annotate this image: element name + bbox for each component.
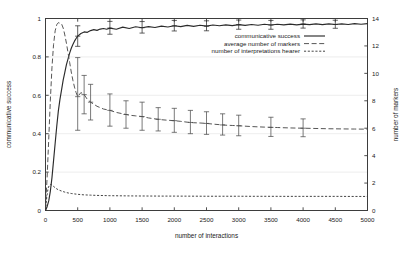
svg-text:number of interactions: number of interactions [175, 232, 238, 239]
chart-figure: 0500100015002000250030003500400045005000… [0, 0, 408, 254]
svg-text:2: 2 [372, 179, 376, 186]
chart-plot: 0500100015002000250030003500400045005000… [0, 0, 408, 254]
svg-text:0: 0 [372, 207, 376, 214]
svg-text:0.6: 0.6 [32, 92, 41, 99]
svg-text:4500: 4500 [328, 216, 342, 223]
svg-text:communicative success: communicative success [235, 32, 300, 39]
svg-text:4: 4 [372, 152, 376, 159]
svg-text:average number of markers: average number of markers [224, 40, 300, 47]
svg-text:0.8: 0.8 [32, 53, 41, 60]
y-axis-right-ticks: 02468101214 [364, 15, 379, 214]
svg-text:1000: 1000 [103, 216, 117, 223]
svg-text:0.4: 0.4 [32, 130, 41, 137]
svg-text:12: 12 [372, 42, 379, 49]
svg-text:10: 10 [372, 70, 379, 77]
svg-text:2000: 2000 [167, 216, 181, 223]
svg-text:6: 6 [372, 125, 376, 132]
svg-text:3000: 3000 [232, 216, 246, 223]
svg-text:4000: 4000 [296, 216, 310, 223]
svg-text:500: 500 [73, 216, 84, 223]
svg-text:8: 8 [372, 97, 376, 104]
chart-legend: communicative successaverage number of m… [212, 32, 325, 54]
svg-text:3500: 3500 [264, 216, 278, 223]
axis-titles: number of interactionscommunicative succ… [5, 81, 399, 239]
svg-text:communicative success: communicative success [5, 81, 12, 148]
x-axis-ticks: 0500100015002000250030003500400045005000 [44, 19, 375, 224]
svg-text:1: 1 [38, 15, 42, 22]
y-axis-left-ticks: 00.20.40.60.81 [32, 15, 48, 214]
svg-text:0: 0 [44, 216, 48, 223]
svg-text:0: 0 [38, 207, 42, 214]
svg-text:2500: 2500 [200, 216, 214, 223]
svg-text:5000: 5000 [361, 216, 375, 223]
svg-text:number of markers: number of markers [392, 88, 399, 142]
svg-text:number of interpretations hear: number of interpretations hearer [212, 47, 300, 54]
svg-text:0.2: 0.2 [32, 168, 41, 175]
svg-text:14: 14 [372, 15, 379, 22]
svg-text:1500: 1500 [135, 216, 149, 223]
